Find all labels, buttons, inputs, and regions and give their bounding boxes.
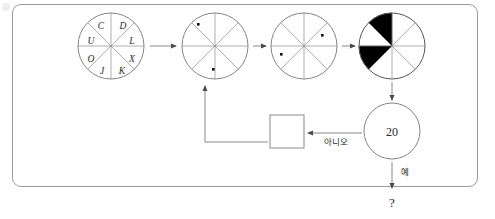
decision-circle: 20 [364, 103, 420, 159]
wheel-3-marker-upper-right [321, 34, 324, 37]
empty-process-box[interactable] [270, 115, 304, 148]
wheel-letter-C: C [98, 21, 105, 31]
wheel-letter-O: O [88, 54, 95, 64]
wheel-rotated-two-dot [271, 13, 337, 79]
wheel-2-marker-upper-left [197, 23, 200, 26]
wheel-4-filled-sector-lower-left [359, 46, 392, 69]
wheel-letter-X: X [128, 54, 136, 64]
branch-label-yes: 예 [401, 167, 409, 177]
wheel-letter-L: L [128, 36, 134, 46]
branch-label-no: 아니오 [324, 137, 348, 147]
question-terminal: ? [389, 195, 395, 210]
wheel-shaded [359, 13, 425, 79]
wheel-lettered: C D U L O X J K [78, 13, 144, 79]
wheel-letter-K: K [118, 66, 126, 76]
wheel-3-marker-lower-left [280, 53, 283, 56]
scan-smudge [2, 3, 10, 11]
wheel-4-filled-sector-top-left [369, 13, 392, 46]
wheel-two-dot [182, 13, 248, 79]
arrow-box-to-wheel2 [205, 86, 268, 142]
decision-value: 20 [386, 125, 398, 139]
wheel-letter-J: J [100, 66, 105, 76]
wheel-letter-U: U [88, 36, 96, 46]
wheel-2-marker-lower-right [212, 68, 215, 71]
wheel-letter-D: D [119, 21, 127, 31]
flowchart-diagram: C D U L O X J K [0, 0, 495, 219]
